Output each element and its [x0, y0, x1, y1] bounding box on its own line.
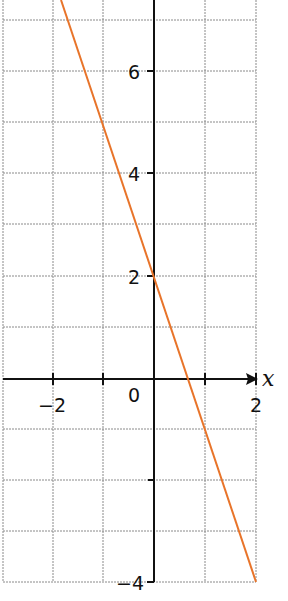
origin-label: 0	[128, 384, 140, 406]
y-tick-label-2: 2	[128, 266, 140, 288]
y-tick-label-neg4: −4	[116, 572, 144, 594]
chart-canvas: x −2 0 2 6 4 2 −4	[0, 0, 288, 601]
y-tick-label-4: 4	[128, 163, 140, 185]
series-line	[61, 0, 256, 582]
x-tick-label-2: 2	[250, 394, 262, 416]
grid	[3, 0, 256, 582]
x-axis-label: x	[262, 366, 275, 391]
y-axis	[147, 0, 154, 582]
y-tick-label-6: 6	[128, 61, 140, 83]
x-tick-label-neg2: −2	[38, 394, 66, 416]
